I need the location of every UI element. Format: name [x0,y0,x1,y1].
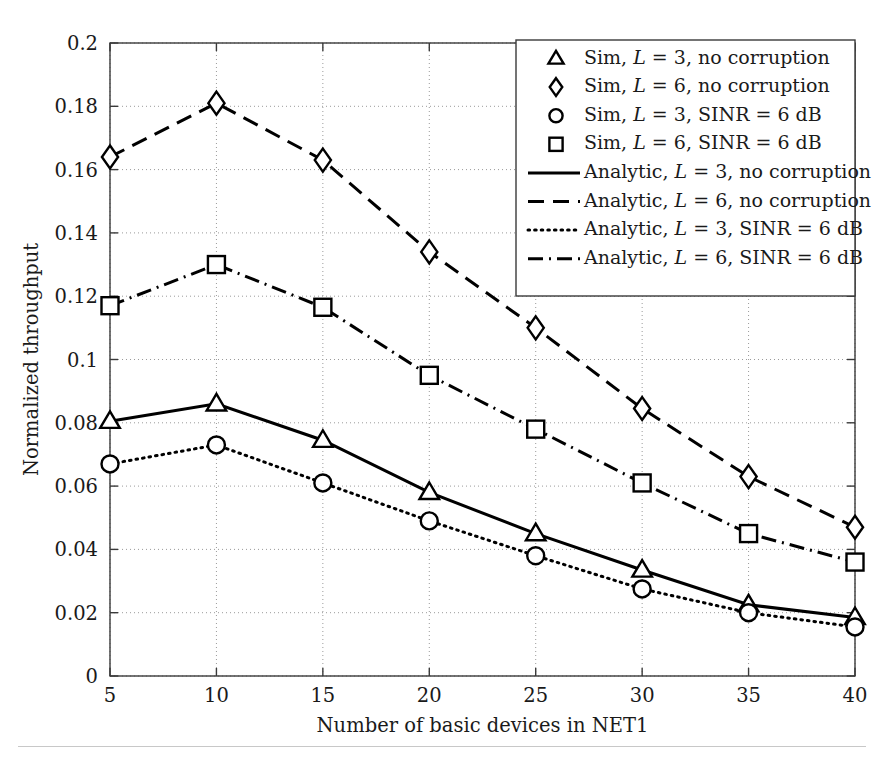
x-tick-label: 20 [417,684,442,707]
x-axis-label: Number of basic devices in NET1 [317,714,649,737]
x-tick-label: 35 [736,684,761,707]
y-tick-label: 0.18 [55,95,98,118]
x-tick-label: 40 [843,684,868,707]
data-marker-circle [527,547,544,564]
data-marker-square [527,421,544,438]
throughput-line-chart: 00.020.040.060.080.10.120.140.160.180.25… [0,0,884,760]
y-tick-label: 0.08 [55,412,98,435]
y-tick-label: 0.06 [55,475,98,498]
data-marker-square [421,367,438,384]
x-tick-label: 30 [630,684,655,707]
y-axis-label: Normalized throughput [20,243,43,476]
y-tick-label: 0.1 [67,349,98,372]
legend-label: Sim, L = 3, no corruption [584,46,830,68]
y-tick-label: 0.14 [55,222,98,245]
x-tick-label: 5 [104,684,116,707]
y-tick-label: 0.02 [55,602,98,625]
bottom-divider-rule [18,746,866,747]
data-marker-circle [102,455,119,472]
x-tick-label: 10 [204,684,229,707]
figure-container: 00.020.040.060.080.10.120.140.160.180.25… [0,0,884,760]
x-tick-label: 15 [310,684,335,707]
data-marker-square [314,299,331,316]
y-tick-label: 0.16 [55,159,98,182]
legend-label: Analytic, L = 3, SINR = 6 dB [583,217,863,239]
legend-label: Analytic, L = 6, SINR = 6 dB [583,246,863,268]
legend-label: Analytic, L = 6, no corruption [583,189,871,211]
data-marker-circle [421,512,438,529]
data-marker-circle [549,109,562,122]
y-tick-label: 0.2 [67,32,98,55]
legend-label: Analytic, L = 3, no corruption [583,160,871,182]
data-marker-square [740,525,757,542]
data-marker-square [847,554,864,571]
y-tick-label: 0 [86,665,98,688]
data-marker-square [634,474,651,491]
legend-label: Sim, L = 3, SINR = 6 dB [584,103,822,125]
y-tick-label: 0.12 [55,285,98,308]
legend-label: Sim, L = 6, no corruption [584,74,830,96]
data-marker-square [208,256,225,273]
data-marker-circle [634,580,651,597]
data-marker-circle [847,618,864,635]
data-marker-circle [314,474,331,491]
data-marker-square [549,138,562,151]
legend-label: Sim, L = 6, SINR = 6 dB [584,131,822,153]
chart-legend: Sim, L = 3, no corruptionSim, L = 6, no … [516,40,871,296]
y-tick-label: 0.04 [55,538,98,561]
data-marker-circle [208,436,225,453]
x-tick-label: 25 [523,684,548,707]
data-marker-circle [740,604,757,621]
data-marker-square [102,297,119,314]
